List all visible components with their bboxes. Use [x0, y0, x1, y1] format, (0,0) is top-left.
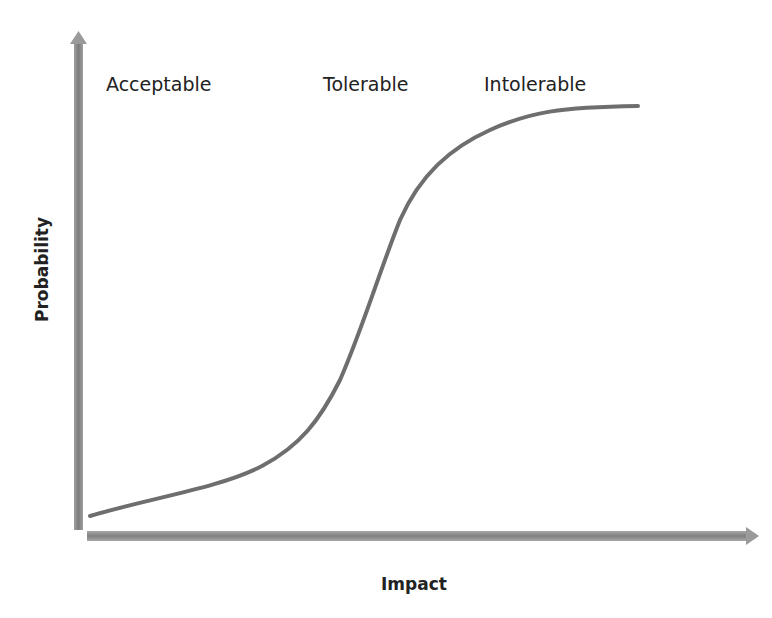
zone-label-tolerable: Tolerable	[323, 73, 408, 95]
y-axis-arrow-icon	[70, 31, 87, 530]
risk-diagram: Acceptable Tolerable Intolerable Probabi…	[0, 0, 772, 618]
zone-label-intolerable: Intolerable	[484, 73, 586, 95]
risk-s-curve	[90, 106, 638, 516]
x-axis-title: Impact	[381, 574, 447, 594]
y-axis-title: Probability	[32, 222, 52, 322]
zone-label-acceptable: Acceptable	[106, 73, 211, 95]
x-axis-arrow-icon	[87, 527, 759, 545]
